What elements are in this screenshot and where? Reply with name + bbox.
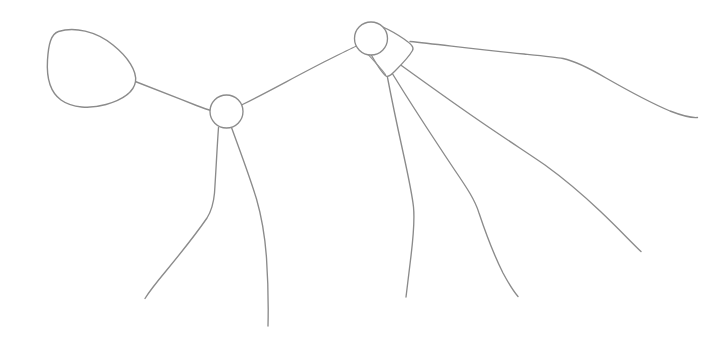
connector-group [134, 46, 357, 111]
sketch-svg [0, 0, 722, 342]
strand-top-long [410, 42, 698, 118]
connector-lower-node-to-upper-node [243, 46, 357, 105]
node-circle-lower [210, 95, 243, 128]
sketch-canvas [0, 0, 722, 342]
strand-wedge-center [392, 73, 518, 297]
strand-group [145, 42, 698, 327]
connector-blob-to-lower-node [134, 81, 211, 111]
strand-wedge-right [400, 65, 641, 252]
node-circle-upper [355, 22, 388, 55]
egg-blob [47, 30, 135, 108]
strand-wedge-left [388, 78, 415, 298]
strand-lower-left [145, 128, 219, 299]
strand-lower-center [232, 128, 269, 327]
